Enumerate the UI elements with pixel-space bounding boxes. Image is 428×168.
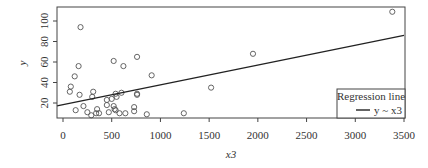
data-point [76,64,81,69]
x-tick-label: 1000 [149,129,172,141]
data-point [73,108,78,113]
x-tick-label: 3500 [393,129,416,141]
y-tick-label: 20 [38,97,50,109]
legend-entry: y ~ x3 [374,104,402,116]
data-point [208,85,213,90]
data-point [109,96,114,101]
legend-title: Regression line [337,90,405,102]
legend: Regression line y ~ x3 [337,89,405,118]
data-point [390,9,395,14]
x-axis-label: x3 [225,148,237,160]
data-point [81,103,86,108]
data-point [77,92,82,97]
data-point [111,58,116,63]
x-tick-label: 1500 [198,129,221,141]
y-tick-label: 80 [38,36,50,48]
data-point [68,84,73,89]
data-point [144,112,149,117]
data-point [67,89,72,94]
x-tick-label: 2500 [296,129,319,141]
data-point [104,97,109,102]
data-point [89,113,94,118]
x-tick-label: 500 [103,129,120,141]
data-point [123,111,128,116]
data-point [104,102,109,107]
y-axis-label: y [16,60,28,66]
x-axis: 0500100015002000250030003500 [60,118,415,141]
y-tick-label: 60 [38,56,50,68]
x-tick-label: 0 [60,129,66,141]
data-point [78,25,83,30]
x-tick-label: 3000 [344,129,367,141]
y-tick-label: 100 [38,12,50,29]
data-point [106,110,111,115]
data-point [149,73,154,78]
x-tick-label: 2000 [247,129,270,141]
y-tick-label: 40 [38,77,50,89]
y-axis: 20406080100 [38,12,57,108]
data-point [121,64,126,69]
data-point [250,51,255,56]
data-point [181,111,186,116]
data-point [114,94,119,99]
scatter-chart: 0500100015002000250030003500 20406080100… [0,0,428,168]
data-point [91,89,96,94]
data-point [117,111,122,116]
data-point [134,54,139,59]
data-point [72,74,77,79]
